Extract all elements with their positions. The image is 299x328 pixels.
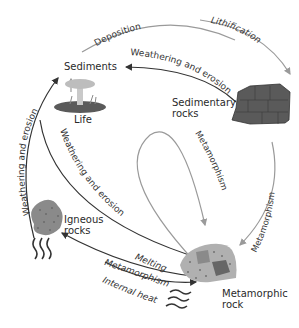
label-lithification: Lithification	[210, 15, 263, 45]
label-weathering-metamorphic: Weathering and erosion	[58, 127, 126, 218]
rock-cycle-diagram: Deposition Lithification Weathering and …	[0, 0, 299, 328]
label-metamorphism-loop: Metamorphism	[193, 129, 229, 192]
node-life: Life	[74, 114, 92, 125]
sedimentary-rock-icon	[232, 84, 290, 124]
igneous-rock-icon	[31, 200, 62, 235]
life-mushroom-icon	[54, 79, 106, 113]
node-sediments: Sediments	[64, 61, 117, 72]
label-deposition: Deposition	[93, 21, 142, 48]
node-metamorphic-line1: Metamorphic	[222, 288, 288, 299]
metamorphic-rock-icon	[180, 244, 237, 282]
label-weathering-igneous: Weathering and erosion	[16, 106, 40, 216]
heat-waves-icon	[166, 290, 191, 308]
node-sedimentary-line1: Sedimentary	[172, 97, 236, 108]
node-igneous-line1: Igneous	[64, 214, 103, 225]
label-metamorphism-sedimentary: Metamorphism	[249, 191, 277, 254]
node-igneous-line2: rocks	[64, 225, 91, 236]
arrow-metamorphism-loop	[137, 132, 205, 262]
node-metamorphic-line2: rock	[222, 299, 243, 310]
heat-waves-icon	[33, 238, 51, 259]
node-sedimentary-line2: rocks	[172, 108, 199, 119]
